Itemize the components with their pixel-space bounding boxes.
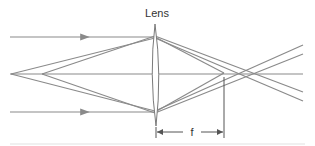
source-1-ray-bottom-out [155,45,303,111]
source-2-ray-bottom-in [42,74,155,113]
source-1-ray-top-out [155,38,303,101]
lens-label: Lens [145,7,169,19]
lens-diagram: Lens f [0,0,315,146]
focal-length-dimension: f [156,77,224,138]
source-2-ray-top-in [42,36,155,74]
focal-length-label: f [190,126,194,138]
